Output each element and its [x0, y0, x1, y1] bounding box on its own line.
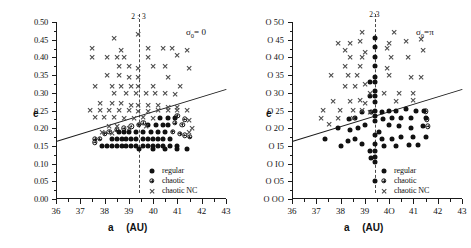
y-tick-major	[288, 111, 293, 112]
data-point-cross	[116, 63, 122, 69]
x-tick-minor	[450, 199, 451, 202]
y-tick-minor	[290, 66, 293, 67]
data-point-cross	[150, 115, 156, 121]
y-tick-major	[288, 75, 293, 76]
data-point-regular	[372, 159, 377, 164]
data-point-regular	[322, 136, 327, 141]
data-point-cross	[90, 46, 96, 52]
x-tick-major	[177, 199, 178, 204]
legend-item: chaotic	[384, 176, 466, 186]
y-tick-minor	[290, 137, 293, 138]
data-point-cross	[121, 115, 127, 121]
x-axis-title-unit-right: (AU)	[362, 222, 383, 233]
x-tick-label: 41	[173, 206, 182, 216]
data-point-cross	[99, 130, 105, 136]
data-point-cross	[136, 32, 142, 38]
data-point-regular	[153, 122, 158, 127]
sigma-value-right: =π	[424, 27, 434, 37]
data-point-cross	[141, 115, 147, 121]
y-tick-label: O 45	[236, 35, 284, 44]
data-point-cross	[386, 72, 392, 78]
data-point-cross	[408, 74, 414, 80]
panel-left: 0.500.450.400.350.300.250.200.150.100.05…	[0, 0, 235, 248]
data-point-regular	[381, 117, 386, 122]
data-point-cross	[343, 63, 349, 69]
x-tick-minor	[304, 199, 305, 202]
data-point-regular	[379, 136, 384, 141]
y-tick-label: 0.25	[0, 106, 48, 116]
y-tick-label: O I5	[236, 141, 284, 150]
legend-item: regular	[152, 166, 230, 176]
x-tick-major	[341, 199, 342, 204]
data-point-regular	[382, 143, 387, 148]
data-point-regular	[141, 129, 146, 134]
resonance-label-right: 2:3	[369, 10, 379, 19]
y-tick-label: 0.20	[0, 123, 48, 133]
x-tick-major	[226, 199, 227, 204]
y-tick-label: O IO	[236, 159, 284, 168]
y-tick-minor	[290, 49, 293, 50]
data-point-cross	[391, 30, 397, 36]
data-point-cross	[150, 83, 156, 89]
data-point-cross	[145, 102, 151, 108]
data-point-cross	[133, 90, 139, 96]
x-tick-minor	[141, 199, 142, 202]
data-point-cross	[394, 99, 400, 105]
data-point-cross	[109, 131, 115, 137]
data-point-cross	[357, 63, 363, 69]
y-tick-label: 0.05	[0, 176, 48, 186]
x-tick-major	[316, 199, 317, 204]
data-point-regular	[372, 44, 377, 49]
x-tick-minor	[377, 199, 378, 202]
data-point-regular	[409, 126, 414, 131]
data-point-cross	[155, 108, 161, 114]
x-tick-label: 43	[222, 206, 231, 216]
data-point-regular	[134, 136, 139, 141]
data-point-cross	[107, 124, 113, 130]
x-tick-minor	[165, 199, 166, 202]
x-tick-major	[153, 199, 154, 204]
data-point-regular	[379, 110, 384, 115]
data-point-cross	[184, 108, 190, 114]
y-tick-major	[288, 146, 293, 147]
x-tick-minor	[68, 199, 69, 202]
data-point-cross	[143, 90, 149, 96]
x-tick-minor	[426, 199, 427, 202]
figure-root: 0.500.450.400.350.300.250.200.150.100.05…	[0, 0, 471, 248]
data-point-cross	[111, 115, 117, 121]
data-point-regular	[185, 147, 190, 152]
data-point-regular	[360, 142, 365, 147]
x-tick-minor	[353, 199, 354, 202]
data-point-regular	[372, 99, 377, 104]
data-point-cross	[360, 30, 366, 36]
y-tick-label: O 4O	[236, 53, 284, 62]
data-point-cross	[136, 74, 142, 80]
x-tick-major	[389, 199, 390, 204]
x-tick-label: 4O	[384, 206, 395, 216]
data-point-cross	[116, 108, 122, 114]
legend-item: chaotic	[152, 176, 230, 186]
data-point-cross	[150, 63, 156, 69]
data-point-regular	[168, 136, 173, 141]
data-point-regular	[158, 115, 163, 120]
y-tick-minor	[54, 155, 57, 156]
data-point-cross	[335, 40, 341, 46]
data-point-cross	[119, 101, 125, 107]
y-tick-major	[52, 111, 57, 112]
data-point-regular	[389, 136, 394, 141]
x-axis-title-a-right: a	[344, 222, 350, 233]
data-point-cross	[136, 65, 142, 71]
y-tick-label: O 25	[236, 106, 284, 115]
data-point-cross	[109, 83, 115, 89]
data-point-cross	[381, 90, 387, 96]
x-tick-major	[462, 199, 463, 204]
x-tick-label: 39	[360, 206, 369, 216]
data-point-cross	[97, 101, 103, 107]
data-point-regular	[404, 106, 409, 111]
x-tick-major	[292, 199, 293, 204]
x-tick-major	[438, 199, 439, 204]
y-tick-minor	[54, 49, 57, 50]
data-point-cross	[330, 99, 336, 105]
x-tick-label: 37	[312, 206, 321, 216]
y-tick-label: 0.30	[0, 88, 48, 98]
